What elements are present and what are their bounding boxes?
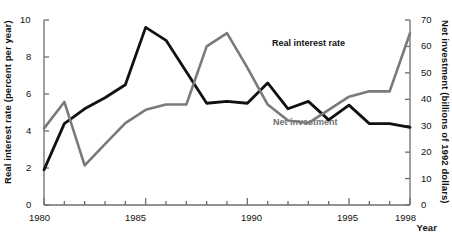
series-lines — [44, 27, 410, 169]
chart-container: Real interest rate (percent per year) Ne… — [0, 0, 452, 240]
plot-area — [0, 0, 452, 240]
